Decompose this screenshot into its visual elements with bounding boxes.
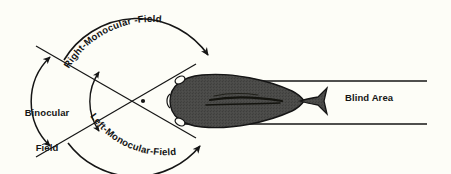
right-monocular-field-label: Right-Monocular -Field [61, 13, 162, 70]
binocular-field-label-line2: Field [14, 142, 80, 154]
fish-visual-field-diagram: Right-Monocular -Field Left-Monocular-Fi… [0, 0, 451, 174]
fish-body [170, 74, 304, 127]
fish-caudal-fin [300, 88, 327, 114]
binocular-field-label: Binocular Field [14, 84, 80, 174]
blind-area-label: Blind Area [345, 92, 421, 104]
binocular-vertex-point [141, 99, 145, 103]
binocular-field-label-line1: Binocular [14, 107, 80, 119]
fish-illustration [167, 74, 327, 127]
left-monocular-field-label: Left-Monocular-Field [88, 111, 176, 157]
